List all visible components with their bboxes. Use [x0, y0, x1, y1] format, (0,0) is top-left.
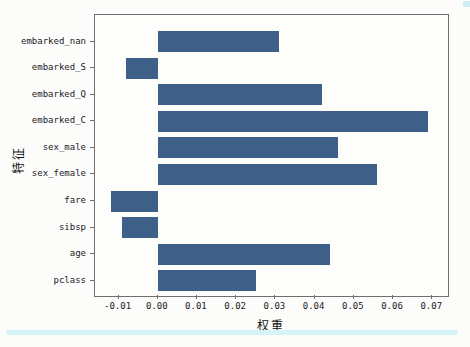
- ytick-mark: [90, 200, 94, 201]
- xtick-mark: [431, 295, 432, 299]
- ytick-label-age: age: [70, 248, 86, 259]
- ytick-mark: [90, 147, 94, 148]
- figure: 特征 embarked_nanembarked_Sembarked_Qembar…: [0, 0, 470, 347]
- bar-sibsp: [122, 217, 157, 238]
- xtick-mark: [392, 295, 393, 299]
- ytick-mark: [90, 67, 94, 68]
- xtick-mark: [274, 295, 275, 299]
- ytick-label-embarked_S: embarked_S: [32, 62, 86, 73]
- ytick-label-embarked_C: embarked_C: [32, 115, 86, 126]
- xtick-label-0.00: 0.00: [137, 301, 177, 311]
- xtick-label-0.07: 0.07: [411, 301, 451, 311]
- ytick-label-embarked_Q: embarked_Q: [32, 89, 86, 100]
- bar-pclass: [158, 270, 256, 291]
- bar-embarked_Q: [158, 84, 323, 105]
- ytick-mark: [90, 227, 94, 228]
- xtick-mark: [118, 295, 119, 299]
- y-axis: embarked_nanembarked_Sembarked_Qembarked…: [0, 14, 90, 295]
- xtick-mark: [353, 295, 354, 299]
- xtick-mark: [235, 295, 236, 299]
- bar-sex_male: [158, 137, 338, 158]
- xtick-mark: [314, 295, 315, 299]
- ytick-label-pclass: pclass: [53, 275, 86, 286]
- xtick-mark: [157, 295, 158, 299]
- bar-fare: [111, 191, 158, 212]
- ytick-label-sibsp: sibsp: [59, 222, 86, 233]
- bar-sex_female: [158, 164, 378, 185]
- bar-embarked_nan: [158, 31, 280, 52]
- x-axis: -0.010.000.010.020.030.040.050.060.07: [94, 295, 448, 317]
- xtick-label--0.01: -0.01: [98, 301, 138, 311]
- xtick-mark: [196, 295, 197, 299]
- ytick-mark: [90, 280, 94, 281]
- ytick-label-fare: fare: [64, 195, 86, 206]
- xtick-label-0.05: 0.05: [333, 301, 373, 311]
- xtick-label-0.06: 0.06: [372, 301, 412, 311]
- xtick-label-0.01: 0.01: [176, 301, 216, 311]
- bar-age: [158, 244, 331, 265]
- xtick-label-0.03: 0.03: [254, 301, 294, 311]
- ytick-label-sex_male: sex_male: [43, 142, 86, 153]
- ytick-mark: [90, 41, 94, 42]
- bar-embarked_S: [126, 58, 157, 79]
- ytick-mark: [90, 120, 94, 121]
- plot-area: [94, 14, 449, 297]
- scan-artifact-bottom-stripe: [6, 330, 458, 335]
- ytick-mark: [90, 94, 94, 95]
- ytick-label-embarked_nan: embarked_nan: [21, 36, 86, 47]
- ytick-mark: [90, 173, 94, 174]
- ytick-label-sex_female: sex_female: [32, 168, 86, 179]
- bar-embarked_C: [158, 111, 429, 132]
- ytick-mark: [90, 253, 94, 254]
- scan-artifact-corner-mark: [463, 1, 470, 7]
- xtick-label-0.02: 0.02: [215, 301, 255, 311]
- xtick-label-0.04: 0.04: [294, 301, 334, 311]
